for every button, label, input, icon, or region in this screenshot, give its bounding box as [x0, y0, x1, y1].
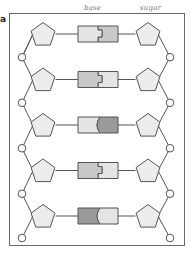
sugar-pentagon-icon — [31, 205, 55, 228]
phosphate-icon — [18, 190, 26, 198]
phosphate-icon — [18, 144, 26, 152]
base-right — [97, 117, 118, 133]
phosphate-icon — [18, 99, 26, 107]
sugar-pentagon-icon — [136, 205, 160, 228]
base-left — [78, 163, 102, 179]
base-left — [78, 72, 102, 88]
phosphate-icon — [18, 234, 26, 242]
phosphate-icon — [166, 99, 174, 107]
base-right — [97, 208, 118, 224]
sugar-pentagon-icon — [136, 68, 160, 91]
sugar-pentagon-icon — [31, 23, 55, 46]
phosphate-icon — [18, 53, 26, 61]
dna-ladder-diagram — [0, 0, 191, 256]
sugar-pentagon-icon — [136, 114, 160, 137]
sugar-pentagon-icon — [31, 114, 55, 137]
phosphate-icon — [166, 234, 174, 242]
phosphate-icon — [166, 144, 174, 152]
phosphate-icon — [166, 53, 174, 61]
sugar-pentagon-icon — [136, 159, 160, 182]
base-left — [78, 26, 102, 42]
sugar-pentagon-icon — [31, 68, 55, 91]
sugar-pentagon-icon — [31, 159, 55, 182]
sugar-pentagon-icon — [136, 23, 160, 46]
phosphate-icon — [166, 190, 174, 198]
